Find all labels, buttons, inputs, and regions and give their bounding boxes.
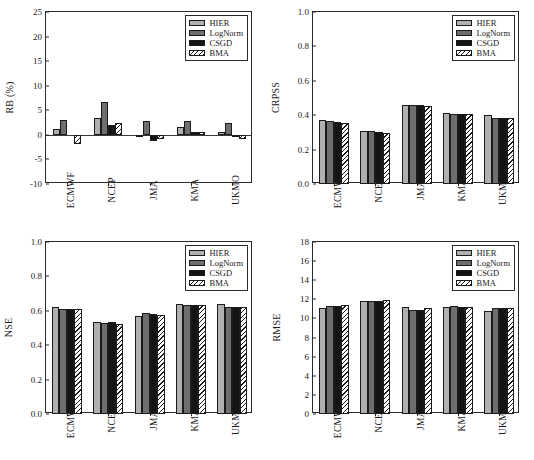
y-axis-tick-label: 20 — [33, 32, 46, 41]
x-axis-tick: JMA — [142, 412, 158, 415]
y-axis-tick-label: 10 — [300, 314, 313, 323]
bar-rmse-ncep-lognorm — [368, 301, 376, 414]
bar-rb-ecmwf-bma — [74, 135, 81, 144]
y-axis-tick-mark — [46, 184, 49, 185]
bar-rb-kma-hier — [177, 127, 184, 135]
panel-nse: NSE0.00.20.40.60.81.0ECMWFNCEPJMAKMAUKMO… — [0, 230, 267, 460]
bar-rb-jma-csgd — [150, 135, 157, 141]
y-axis-tick-label: -5 — [35, 155, 47, 164]
x-axis-tick: ECMWF — [59, 182, 75, 185]
legend-label-bma: BMA — [476, 49, 495, 58]
bar-nse-ecmwf-hier — [52, 307, 60, 414]
legend-label-bma: BMA — [209, 279, 228, 288]
bar-nse-ncep-lognorm — [101, 323, 109, 414]
bar-rb-jma-lognorm — [143, 121, 150, 135]
legend-item-lognorm: LogNorm — [189, 28, 243, 38]
bar-rmse-ncep-hier — [360, 301, 368, 414]
legend-item-csgd: CSGD — [456, 38, 510, 48]
legend-swatch-lognorm — [456, 30, 472, 36]
bar-nse-jma-csgd — [150, 314, 158, 414]
y-axis-tick-label: -10 — [30, 180, 46, 189]
x-axis-tick: NCEP — [100, 412, 116, 415]
bar-nse-jma-lognorm — [142, 313, 150, 414]
bar-rmse-jma-hier — [402, 307, 410, 414]
bar-rmse-ncep-bma — [383, 300, 391, 414]
legend-swatch-lognorm — [189, 30, 205, 36]
legend-item-bma: BMA — [456, 48, 510, 58]
bar-rb-kma-bma — [198, 132, 205, 134]
bar-rmse-ecmwf-lognorm — [326, 306, 334, 414]
bar-rmse-ukmo-bma — [507, 308, 515, 414]
legend: HIERLogNormCSGDBMA — [452, 245, 515, 291]
x-axis-tick-label: ECMWF — [67, 402, 77, 438]
y-axis-tick-label: 1.0 — [31, 238, 46, 247]
y-axis-tick-label: 0.8 — [31, 272, 46, 281]
plot-area: -10-50510152025ECMWFNCEPJMAKMAUKMOHIERLo… — [45, 11, 252, 183]
legend-swatch-csgd — [456, 270, 472, 276]
bar-nse-kma-lognorm — [183, 305, 191, 414]
x-axis-tick-label: ECMWF — [334, 402, 344, 438]
bar-crpss-jma-csgd — [417, 105, 425, 184]
legend-item-csgd: CSGD — [456, 268, 510, 278]
x-axis-tick: KMA — [183, 412, 199, 415]
legend-item-csgd: CSGD — [189, 268, 243, 278]
legend-swatch-hier — [456, 20, 472, 26]
bar-nse-ncep-csgd — [108, 322, 116, 414]
legend-item-bma: BMA — [189, 48, 243, 58]
y-axis-tick-mark — [313, 184, 316, 185]
x-axis-tick: JMA — [409, 412, 425, 415]
legend-label-hier: HIER — [476, 249, 496, 258]
plot-area: 0.00.20.40.60.81.0ECMWFNCEPJMAKMAUKMOHIE… — [45, 241, 252, 413]
x-axis-tick: KMA — [183, 182, 199, 185]
y-axis-tick-label: 18 — [300, 238, 313, 247]
legend-item-lognorm: LogNorm — [456, 258, 510, 268]
legend-item-hier: HIER — [189, 18, 243, 28]
plot-area: 0.00.20.40.60.81.0ECMWFNCEPJMAKMAUKMOHIE… — [312, 11, 519, 183]
bar-nse-kma-bma — [198, 305, 206, 414]
bar-crpss-kma-csgd — [458, 114, 466, 184]
bar-rmse-ecmwf-bma — [341, 305, 349, 414]
legend-label-csgd: CSGD — [476, 269, 499, 278]
bar-rb-ecmwf-hier — [53, 129, 60, 134]
bar-rmse-ukmo-csgd — [499, 308, 507, 414]
bar-nse-ukmo-lognorm — [225, 307, 233, 414]
x-axis-tick-label: KMA — [191, 408, 201, 431]
x-axis-tick: JMA — [142, 182, 158, 185]
y-axis-label: CRPSS — [269, 11, 283, 183]
legend-swatch-bma — [189, 50, 205, 56]
x-axis-tick-label: JMA — [150, 180, 160, 200]
bar-crpss-ncep-csgd — [375, 132, 383, 184]
bar-nse-ecmwf-bma — [74, 309, 82, 414]
x-axis-tick-label: NCEP — [375, 177, 385, 202]
legend-item-hier: HIER — [456, 248, 510, 258]
legend-label-csgd: CSGD — [476, 39, 499, 48]
bar-crpss-jma-lognorm — [409, 105, 417, 184]
x-axis-tick-label: JMA — [417, 410, 427, 430]
bar-rb-ncep-lognorm — [101, 102, 108, 135]
x-axis-tick: ECMWF — [59, 412, 75, 415]
legend-item-lognorm: LogNorm — [189, 258, 243, 268]
bar-rb-jma-hier — [136, 135, 143, 137]
x-axis-tick: UKMO — [224, 412, 240, 415]
bar-crpss-jma-hier — [402, 105, 410, 184]
y-axis-label: NSE — [2, 241, 16, 413]
legend-swatch-lognorm — [456, 260, 472, 266]
bar-rb-ukmo-csgd — [232, 135, 239, 137]
x-axis-tick-label: UKMO — [232, 175, 242, 205]
y-axis-label-text: RMSE — [271, 313, 282, 341]
bar-rmse-kma-hier — [443, 307, 451, 414]
y-axis-tick-label: 0.2 — [31, 375, 46, 384]
bar-crpss-ukmo-hier — [484, 115, 492, 184]
bar-nse-ukmo-csgd — [232, 307, 240, 414]
x-axis-tick: JMA — [409, 182, 425, 185]
x-axis-tick-label: JMA — [417, 180, 427, 200]
bar-nse-ukmo-hier — [217, 304, 225, 414]
bar-rb-ukmo-hier — [218, 132, 225, 135]
x-axis-tick-label: ECMWF — [334, 172, 344, 208]
x-axis-tick: NCEP — [367, 412, 383, 415]
legend-label-bma: BMA — [476, 279, 495, 288]
bar-nse-ukmo-bma — [240, 307, 248, 414]
y-axis-tick-label: 25 — [33, 8, 46, 17]
y-axis-tick-label: 12 — [300, 295, 313, 304]
legend-swatch-lognorm — [189, 260, 205, 266]
